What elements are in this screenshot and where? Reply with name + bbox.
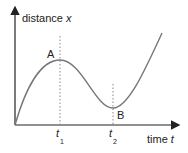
distance-curve — [15, 33, 162, 125]
y-axis-variable: x — [66, 12, 72, 24]
point-a-label: A — [47, 48, 54, 60]
tick-t1-sub: 1 — [60, 138, 64, 145]
point-b-label: B — [117, 109, 124, 121]
y-axis-label: distance x — [22, 12, 72, 24]
x-axis-label: time t — [147, 133, 174, 145]
tick-t2-sub: 2 — [113, 138, 117, 145]
tick-t1-var: t — [56, 127, 59, 139]
tick-t1: t — [56, 127, 59, 139]
x-axis-label-text: time — [147, 133, 168, 145]
x-axis-variable: t — [171, 133, 174, 145]
tick-t2: t — [109, 127, 112, 139]
y-axis-label-text: distance — [22, 12, 63, 24]
tick-t2-var: t — [109, 127, 112, 139]
